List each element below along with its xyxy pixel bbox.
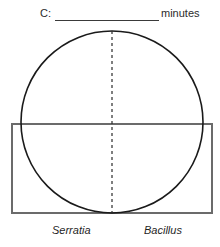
organism-label-left: Serratia <box>52 224 91 236</box>
diagram-figure: C: minutes Serratia Bacillus <box>0 0 220 247</box>
organism-label-right: Bacillus <box>144 224 182 236</box>
organism-labels-row: Serratia Bacillus <box>0 222 220 244</box>
diagram-canvas <box>0 0 220 220</box>
diagram-svg <box>0 0 220 220</box>
